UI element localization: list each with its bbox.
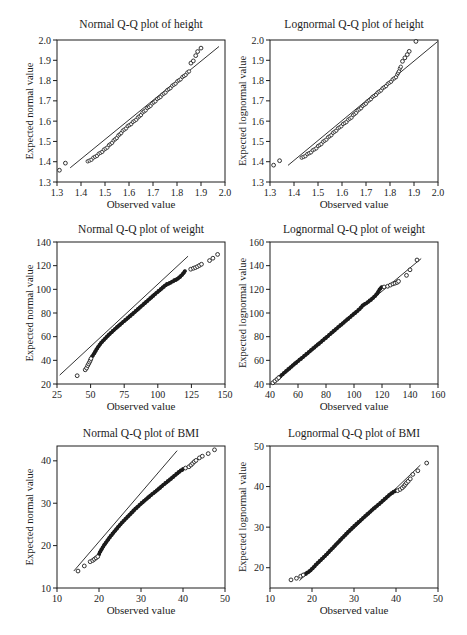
svg-text:80: 80 — [254, 331, 264, 342]
qq-plot-normal-weight: Normal Q-Q plot of weight Expected norma… — [0, 212, 233, 424]
qq-plot-normal-height: Normal Q-Q plot of height Expected norma… — [0, 0, 233, 212]
svg-text:50: 50 — [254, 441, 264, 452]
svg-text:120: 120 — [36, 260, 51, 271]
svg-text:1.5: 1.5 — [312, 187, 325, 198]
svg-text:50: 50 — [433, 593, 443, 604]
plot-canvas: 25507510012515020406080100120140 — [0, 212, 233, 423]
svg-text:1.5: 1.5 — [99, 187, 112, 198]
svg-text:1.9: 1.9 — [39, 55, 52, 66]
qq-plot-lognormal-weight: Lognormal Q-Q plot of weight Expected lo… — [233, 212, 467, 424]
plot-canvas: 406080100120140160406080100120140160 — [233, 212, 466, 423]
svg-text:1.4: 1.4 — [75, 187, 88, 198]
svg-text:40: 40 — [265, 389, 275, 400]
svg-text:2.0: 2.0 — [432, 187, 445, 198]
svg-text:1.9: 1.9 — [408, 187, 421, 198]
x-axis-label: Observed value — [57, 198, 225, 210]
svg-text:160: 160 — [249, 237, 264, 248]
svg-text:10: 10 — [265, 593, 275, 604]
qq-plot-grid: Normal Q-Q plot of height Expected norma… — [0, 0, 467, 635]
x-axis-label: Observed value — [57, 400, 225, 412]
qq-plot-lognormal-bmi: Lognormal Q-Q plot of BMI Expected logno… — [233, 424, 467, 635]
svg-text:120: 120 — [375, 389, 390, 400]
svg-text:1.8: 1.8 — [39, 75, 52, 86]
svg-text:1.8: 1.8 — [252, 75, 265, 86]
svg-text:1.4: 1.4 — [288, 187, 301, 198]
plot-canvas: 1.31.41.51.61.71.81.92.01.31.41.51.61.71… — [0, 0, 233, 211]
svg-text:2.0: 2.0 — [219, 187, 232, 198]
x-axis-label: Observed value — [270, 198, 438, 210]
svg-text:20: 20 — [254, 562, 264, 573]
svg-text:40: 40 — [41, 355, 51, 366]
svg-text:1.8: 1.8 — [384, 187, 397, 198]
x-axis-label: Observed value — [270, 604, 438, 616]
svg-text:30: 30 — [254, 522, 264, 533]
svg-text:25: 25 — [52, 389, 62, 400]
svg-text:1.3: 1.3 — [39, 177, 52, 188]
svg-text:1.7: 1.7 — [360, 187, 373, 198]
svg-text:1.6: 1.6 — [123, 187, 136, 198]
svg-text:140: 140 — [249, 260, 264, 271]
svg-text:1.6: 1.6 — [252, 116, 265, 127]
qq-plot-normal-bmi: Normal Q-Q plot of BMI Expected normal v… — [0, 424, 233, 635]
svg-text:10: 10 — [52, 593, 62, 604]
plot-canvas: 1.31.41.51.61.71.81.92.01.31.41.51.61.71… — [233, 0, 466, 211]
svg-text:1.9: 1.9 — [252, 55, 265, 66]
svg-text:2.0: 2.0 — [39, 35, 52, 46]
svg-text:100: 100 — [36, 284, 51, 295]
svg-text:1.3: 1.3 — [252, 177, 265, 188]
qq-plot-lognormal-height: Lognormal Q-Q plot of height Expected lo… — [233, 0, 467, 212]
svg-text:40: 40 — [41, 455, 51, 466]
svg-text:1.9: 1.9 — [195, 187, 208, 198]
svg-text:140: 140 — [403, 389, 418, 400]
svg-text:1.7: 1.7 — [39, 95, 52, 106]
svg-text:2.0: 2.0 — [252, 35, 265, 46]
svg-text:80: 80 — [321, 389, 331, 400]
svg-text:1.8: 1.8 — [171, 187, 184, 198]
svg-text:75: 75 — [119, 389, 129, 400]
svg-text:40: 40 — [391, 593, 401, 604]
svg-text:120: 120 — [249, 284, 264, 295]
svg-text:30: 30 — [349, 593, 359, 604]
svg-text:125: 125 — [184, 389, 199, 400]
svg-text:60: 60 — [254, 355, 264, 366]
svg-text:100: 100 — [347, 389, 362, 400]
svg-text:80: 80 — [41, 308, 51, 319]
svg-text:20: 20 — [307, 593, 317, 604]
svg-text:40: 40 — [254, 379, 264, 390]
svg-text:100: 100 — [150, 389, 165, 400]
svg-text:150: 150 — [218, 389, 233, 400]
svg-text:1.5: 1.5 — [252, 136, 265, 147]
svg-text:60: 60 — [293, 389, 303, 400]
svg-text:1.4: 1.4 — [39, 156, 52, 167]
svg-text:50: 50 — [86, 389, 96, 400]
svg-text:30: 30 — [136, 593, 146, 604]
svg-text:1.3: 1.3 — [264, 187, 277, 198]
svg-text:40: 40 — [254, 481, 264, 492]
svg-text:30: 30 — [41, 498, 51, 509]
svg-text:1.5: 1.5 — [39, 136, 52, 147]
svg-text:100: 100 — [249, 308, 264, 319]
svg-text:1.3: 1.3 — [51, 187, 64, 198]
svg-text:60: 60 — [41, 331, 51, 342]
svg-text:140: 140 — [36, 237, 51, 248]
svg-text:20: 20 — [94, 593, 104, 604]
svg-text:50: 50 — [220, 593, 230, 604]
svg-text:1.4: 1.4 — [252, 156, 265, 167]
x-axis-label: Observed value — [57, 604, 225, 616]
svg-text:160: 160 — [431, 389, 446, 400]
svg-text:20: 20 — [41, 379, 51, 390]
svg-text:1.6: 1.6 — [336, 187, 349, 198]
svg-text:1.6: 1.6 — [39, 116, 52, 127]
svg-text:1.7: 1.7 — [252, 95, 265, 106]
svg-text:1.7: 1.7 — [147, 187, 160, 198]
svg-text:10: 10 — [41, 583, 51, 594]
svg-text:40: 40 — [178, 593, 188, 604]
svg-text:20: 20 — [41, 540, 51, 551]
x-axis-label: Observed value — [270, 400, 438, 412]
